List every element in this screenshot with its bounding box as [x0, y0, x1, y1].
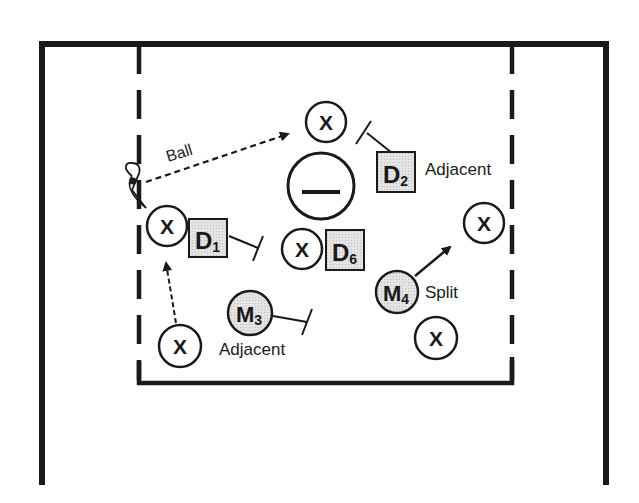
stick-with-ball-icon: [126, 163, 146, 208]
svg-text:X: X: [160, 215, 174, 238]
defender-d6: D6: [326, 230, 364, 270]
defender-d2: D2: [356, 121, 415, 192]
cut-arrow: [166, 263, 176, 323]
svg-text:X: X: [173, 335, 187, 358]
offense-player-ball-carrier: X: [147, 206, 187, 246]
offense-player-top: X: [306, 102, 346, 142]
offense-player-bottom-right: X: [415, 317, 457, 359]
svg-text:X: X: [319, 111, 333, 134]
play-diagram: Ball X X X X X X D1: [0, 0, 639, 503]
adjacent-label-m3: Adjacent: [219, 340, 285, 359]
offense-player-crease: X: [282, 229, 322, 269]
midfielder-m3: M3: [228, 291, 312, 335]
offense-player-right-wing: X: [464, 203, 504, 243]
offense-player-bottom-left: X: [159, 325, 201, 367]
ball-label: Ball: [164, 141, 194, 165]
split-label: Split: [425, 283, 458, 302]
goal-crease: [288, 153, 354, 219]
svg-text:X: X: [477, 212, 491, 235]
svg-text:X: X: [295, 238, 309, 261]
adjacent-label-d2: Adjacent: [425, 160, 491, 179]
defender-d1: D1: [189, 219, 263, 261]
svg-text:X: X: [429, 327, 443, 350]
midfielder-m4: M4: [376, 247, 450, 313]
